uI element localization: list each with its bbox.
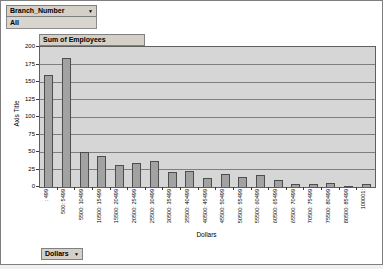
y-axis-tick-mark [36, 46, 39, 47]
y-axis-tick-mark [36, 169, 39, 170]
x-axis-tick-mark [180, 187, 181, 190]
x-axis-tick-mark [215, 187, 216, 190]
bar-80500-85499[interactable] [344, 186, 353, 187]
x-axis-category-label: 80500: 85499 [342, 189, 350, 235]
x-axis-tick-mark [145, 187, 146, 190]
gridline [40, 99, 375, 100]
bar-50500-55499[interactable] [238, 177, 247, 188]
chart-plot-area [39, 46, 376, 188]
gridline [40, 169, 375, 170]
x-axis-tick-mark [233, 187, 234, 190]
bar-70500-75499[interactable] [309, 184, 318, 187]
bar-25500-30499[interactable] [150, 161, 159, 187]
gridline [40, 152, 375, 153]
bar-65500-70499[interactable] [291, 184, 300, 188]
x-axis-category-label: 5500: 10499 [77, 189, 85, 235]
y-axis-tick-mark [36, 116, 39, 117]
y-axis-tick-mark [36, 151, 39, 152]
bar-10500-15499[interactable] [97, 156, 106, 188]
bar-100001-[interactable] [362, 184, 371, 187]
x-axis-category-label: 30500: 35499 [165, 189, 173, 235]
x-axis-tick-mark [198, 187, 199, 190]
y-axis-tick-mark [36, 64, 39, 65]
y-axis-tick-label: 0 [13, 183, 35, 189]
y-axis-tick-mark [36, 186, 39, 187]
y-axis-tick-mark [36, 134, 39, 135]
y-axis-tick-label: 75 [13, 131, 35, 137]
category-field-label: Dollars [45, 249, 69, 259]
x-axis-category-label: 45500: 50499 [218, 189, 226, 235]
x-axis-category-label: 55500: 60499 [253, 189, 261, 235]
bar-30500-35499[interactable] [168, 172, 177, 187]
gridline [40, 134, 375, 135]
x-axis-category-label: 50500: 55499 [236, 189, 244, 235]
gridline [40, 64, 375, 65]
y-axis-tick-label: 50 [13, 148, 35, 154]
bar-500-5499[interactable] [62, 58, 71, 188]
chevron-down-icon: ▼ [74, 249, 79, 259]
series-field-button[interactable]: Sum of Employees [39, 34, 145, 46]
y-axis-tick-label: 125 [13, 96, 35, 102]
y-axis-tick-label: 25 [13, 166, 35, 172]
y-axis-tick-mark [36, 99, 39, 100]
y-axis-tick-label: 100 [13, 113, 35, 119]
x-axis-category-label: : 499 [42, 189, 50, 235]
branch-number-filter-button[interactable]: Branch_Number ▼ [6, 5, 97, 17]
bar-5500-10499[interactable] [80, 152, 89, 187]
bar-40500-45499[interactable] [203, 178, 212, 187]
x-axis-category-label: 60500: 65499 [271, 189, 279, 235]
chevron-down-icon: ▼ [88, 6, 93, 16]
bar-75500-80499[interactable] [326, 183, 335, 187]
x-axis-tick-mark [286, 187, 287, 190]
x-axis-category-label: 20500: 25499 [130, 189, 138, 235]
x-axis-tick-mark [356, 187, 357, 190]
bar-20500-25499[interactable] [132, 163, 141, 188]
category-field-button[interactable]: Dollars ▼ [41, 248, 83, 260]
x-axis-category-label: 70500: 75499 [306, 189, 314, 235]
x-axis-tick-mark [268, 187, 269, 190]
x-axis-tick-mark [74, 187, 75, 190]
x-axis-category-label: 35500: 40499 [183, 189, 191, 235]
branch-filter-label: Branch_Number [10, 6, 64, 16]
series-field-label: Sum of Employees [43, 35, 106, 45]
branch-filter-value[interactable]: All [6, 17, 97, 29]
x-axis-tick-mark [110, 187, 111, 190]
pivot-chart-window: Branch_Number ▼ All Sum of Employees Axi… [0, 0, 383, 265]
x-axis-category-label: 10500: 15499 [95, 189, 103, 235]
x-axis-category-label: 500: 5499 [59, 189, 67, 235]
y-axis-tick-mark [36, 81, 39, 82]
x-axis-tick-mark [321, 187, 322, 190]
bar-45500-50499[interactable] [221, 174, 230, 187]
x-axis-tick-mark [92, 187, 93, 190]
bar--499[interactable] [44, 75, 53, 187]
x-axis-category-label: 75500: 80499 [324, 189, 332, 235]
y-axis-tick-label: 175 [13, 61, 35, 67]
gridline [40, 82, 375, 83]
x-axis-category-label: 100001: [359, 189, 367, 235]
bar-55500-60499[interactable] [256, 175, 265, 187]
y-axis-tick-label: 150 [13, 78, 35, 84]
x-axis-tick-mark [339, 187, 340, 190]
x-axis-category-label: 15500: 20499 [112, 189, 120, 235]
x-axis-category-label: 25500: 30499 [148, 189, 156, 235]
x-axis-tick-mark [251, 187, 252, 190]
bar-15500-20499[interactable] [115, 165, 124, 187]
x-axis-tick-mark [57, 187, 58, 190]
x-axis-tick-mark [127, 187, 128, 190]
gridline [40, 117, 375, 118]
bar-35500-40499[interactable] [185, 171, 194, 187]
x-axis-category-label: 65500: 70499 [289, 189, 297, 235]
x-axis-tick-mark [303, 187, 304, 190]
x-axis-tick-mark [162, 187, 163, 190]
y-axis-tick-label: 200 [13, 43, 35, 49]
x-axis-category-label: 40500: 45499 [201, 189, 209, 235]
bar-60500-65499[interactable] [274, 180, 283, 187]
